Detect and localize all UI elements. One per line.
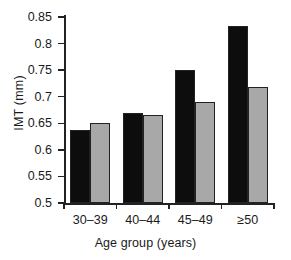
x-tick-mark: [221, 203, 223, 209]
bars-layer: [64, 17, 274, 203]
x-tick-mark: [63, 203, 65, 209]
bar-series-2-30–39: [90, 123, 110, 203]
y-tick-label: 0.55: [0, 168, 52, 184]
y-tick-label: 0.8: [0, 36, 52, 52]
x-group-label: ≥50: [237, 213, 258, 227]
bar-series-2-≥50: [248, 87, 268, 203]
x-tick-mark: [273, 203, 275, 209]
chart-figure: IMT (mm) 0.850.80.750.70.650.60.550.5 30…: [0, 0, 291, 260]
y-tick-label: 0.7: [0, 89, 52, 105]
x-group-label: 45–49: [178, 213, 213, 227]
x-axis-title: Age group (years): [0, 236, 291, 250]
y-tick-label: 0.6: [0, 142, 52, 158]
y-tick-label: 0.85: [0, 9, 52, 25]
bar-series-1-≥50: [228, 26, 248, 203]
bar-series-1-40–44: [123, 113, 143, 203]
y-tick-label: 0.5: [0, 195, 52, 211]
x-tick-mark: [116, 203, 118, 209]
bar-series-2-45–49: [195, 102, 215, 204]
y-tick-label: 0.65: [0, 115, 52, 131]
bar-series-2-40–44: [143, 115, 163, 203]
bar-series-1-45–49: [175, 70, 195, 203]
x-tick-mark: [168, 203, 170, 209]
y-tick-label: 0.75: [0, 62, 52, 78]
x-group-label: 30–39: [73, 213, 108, 227]
bar-series-1-30–39: [70, 130, 90, 203]
x-group-label: 40–44: [125, 213, 160, 227]
